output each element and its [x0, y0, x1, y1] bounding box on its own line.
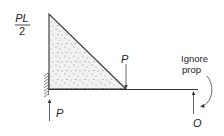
- beam-diagram: PL 2 P P O Ignore prop: [0, 0, 224, 136]
- annotation-line2: prop: [182, 64, 201, 75]
- applied-load-arrow-icon: [124, 64, 127, 89]
- right-reaction-label: O: [193, 117, 202, 129]
- fixed-support-icon: [44, 73, 49, 97]
- moment-label-denominator: 2: [19, 25, 25, 37]
- moment-diagram-triangle: [49, 14, 126, 89]
- annotation-curved-arrow-icon: [200, 76, 212, 108]
- moment-label-numerator: PL: [15, 12, 28, 24]
- applied-load-label: P: [121, 53, 129, 65]
- annotation-line1: Ignore: [181, 53, 208, 64]
- right-prop-arrow-icon: [192, 91, 195, 114]
- left-reaction-label: P: [56, 107, 64, 119]
- left-reaction-arrow-icon: [48, 99, 51, 121]
